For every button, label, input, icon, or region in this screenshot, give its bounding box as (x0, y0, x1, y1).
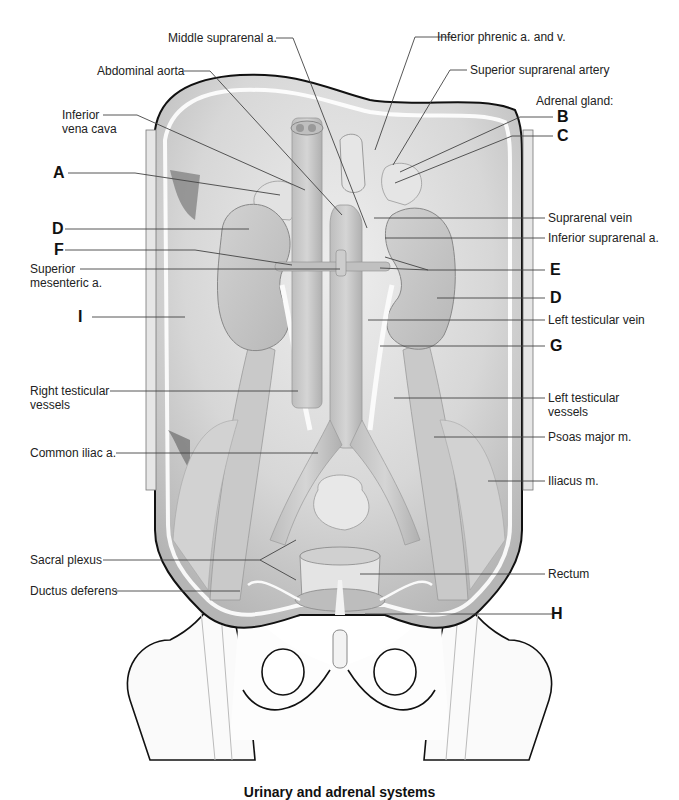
letter-label-D-left: D (52, 220, 64, 238)
label-abdominal-aorta: Abdominal aorta (97, 64, 184, 78)
label-adrenal-gland: Adrenal gland: (536, 94, 613, 108)
label-right-testicular-vessels-line2: vessels (30, 398, 70, 412)
label-right-testicular-vessels-line1: Right testicular (30, 384, 109, 398)
label-inferior-vena-cava-line2: vena cava (62, 122, 117, 136)
label-middle-suprarenal-artery: Middle suprarenal a. (168, 31, 277, 45)
letter-label-D-right: D (550, 289, 562, 307)
figure-caption: Urinary and adrenal systems (0, 784, 679, 800)
label-rectum: Rectum (548, 567, 589, 581)
label-superior-suprarenal-artery: Superior suprarenal artery (470, 63, 609, 77)
label-psoas-major: Psoas major m. (548, 430, 631, 444)
label-common-iliac-artery: Common iliac a. (30, 446, 116, 460)
letter-label-H: H (551, 605, 563, 623)
label-superior-mesenteric-line2: mesenteric a. (30, 276, 102, 290)
label-suprarenal-vein: Suprarenal vein (548, 211, 632, 225)
letter-label-E: E (550, 261, 561, 279)
pelvis-bones (127, 598, 551, 760)
letter-label-B: B (557, 108, 569, 126)
label-ductus-deferens: Ductus deferens (30, 584, 117, 598)
letter-label-F: F (54, 241, 64, 259)
letter-label-I: I (78, 308, 82, 326)
label-left-testicular-vessels-line2: vessels (548, 405, 588, 419)
label-inferior-vena-cava-line1: Inferior (62, 108, 99, 122)
label-inferior-phrenic: Inferior phrenic a. and v. (437, 30, 566, 44)
label-inferior-suprarenal-artery: Inferior suprarenal a. (548, 231, 659, 245)
letter-label-G: G (550, 337, 562, 355)
label-left-testicular-vein: Left testicular vein (548, 313, 645, 327)
label-superior-mesenteric-line1: Superior (30, 262, 75, 276)
letter-label-C: C (557, 127, 569, 145)
label-left-testicular-vessels-line1: Left testicular (548, 391, 619, 405)
label-iliacus: Iliacus m. (548, 474, 599, 488)
label-sacral-plexus: Sacral plexus (30, 553, 102, 567)
letter-label-A: A (53, 164, 65, 182)
